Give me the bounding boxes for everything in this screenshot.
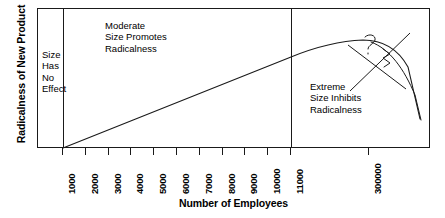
- x-tick: [267, 148, 268, 155]
- curve-overlay: [38, 9, 431, 149]
- x-tick-label: 9000: [248, 174, 259, 194]
- x-tick: [62, 148, 63, 155]
- x-tick-label: 2000: [89, 174, 100, 194]
- annotation-stroke-up: [350, 33, 410, 91]
- x-tick: [368, 148, 369, 155]
- x-axis-ticks: [37, 148, 430, 156]
- x-tick-label: 4000: [134, 174, 145, 194]
- annotation-stroke-down: [348, 45, 406, 89]
- x-tick: [199, 148, 200, 155]
- x-tick-label: 7000: [203, 174, 214, 194]
- x-tick-label: 11000: [294, 169, 305, 194]
- x-tick: [176, 148, 177, 155]
- chart-figure: Radicalness of New Product Size Has No E…: [0, 0, 445, 218]
- x-tick: [244, 148, 245, 155]
- x-tick-label: 3000: [112, 174, 123, 194]
- x-tick: [222, 148, 223, 155]
- annotation-question-mark-icon: [365, 35, 375, 54]
- x-tick: [85, 148, 86, 155]
- x-tick: [153, 148, 154, 155]
- x-tick: [130, 148, 131, 155]
- x-tick: [290, 148, 291, 155]
- x-tick-label: 8000: [226, 174, 237, 194]
- x-tick-label: 300000: [372, 163, 383, 194]
- data-curve: [63, 40, 420, 148]
- x-tick-label: 10000: [271, 169, 282, 194]
- x-tick-label: 6000: [180, 174, 191, 194]
- x-axis-tick-labels: 1000200030004000500060007000800090001000…: [37, 156, 430, 196]
- y-axis-title: Radicalness of New Product: [15, 0, 27, 149]
- plot-area: Size Has No Effect Moderate Size Promote…: [37, 8, 430, 148]
- x-tick-label: 5000: [157, 174, 168, 194]
- x-axis-title: Number of Employees: [37, 197, 430, 209]
- x-tick: [108, 148, 109, 155]
- x-tick-label: 1000: [66, 174, 77, 194]
